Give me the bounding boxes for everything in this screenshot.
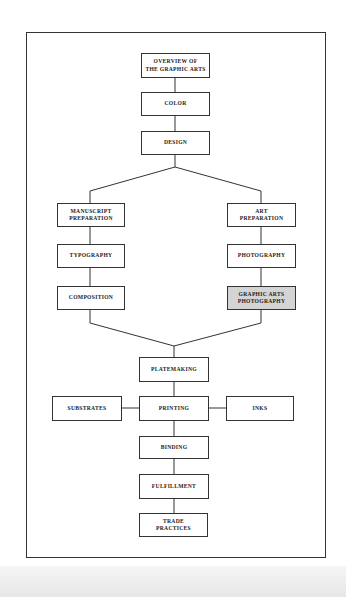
- node-fulfillment: FULFILLMENT: [139, 474, 209, 499]
- node-color: COLOR: [141, 92, 210, 116]
- node-manuscript-preparation: MANUSCRIPT PREPARATION: [57, 203, 125, 227]
- node-composition: COMPOSITION: [57, 286, 125, 310]
- node-printing: PRINTING: [139, 396, 209, 421]
- node-graphic-arts-photography: GRAPHIC ARTS PHOTOGRAPHY: [227, 286, 296, 310]
- node-design: DESIGN: [141, 131, 210, 155]
- node-photography: PHOTOGRAPHY: [227, 244, 296, 268]
- node-art-preparation: ART PREPARATION: [227, 203, 296, 227]
- node-overview: OVERVIEW OF THE GRAPHIC ARTS: [141, 53, 210, 78]
- node-typography: TYPOGRAPHY: [57, 244, 125, 268]
- node-inks: INKS: [226, 396, 294, 421]
- node-substrates: SUBSTRATES: [52, 396, 122, 421]
- node-binding: BINDING: [139, 436, 209, 459]
- node-trade-practices: TRADE PRACTICES: [139, 513, 208, 537]
- node-platemaking: PLATEMAKING: [139, 357, 209, 382]
